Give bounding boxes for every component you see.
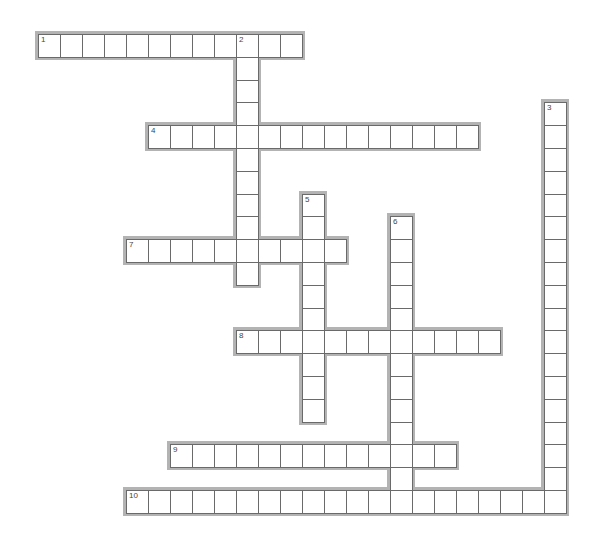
- crossword-cell[interactable]: [434, 330, 457, 354]
- crossword-cell[interactable]: [390, 467, 413, 491]
- crossword-cell[interactable]: [302, 239, 325, 263]
- crossword-cell[interactable]: [280, 330, 303, 354]
- crossword-cell[interactable]: [126, 34, 149, 58]
- crossword-cell[interactable]: [236, 490, 259, 514]
- crossword-cell[interactable]: [412, 330, 435, 354]
- crossword-cell[interactable]: 3: [544, 102, 567, 126]
- crossword-cell[interactable]: [302, 444, 325, 468]
- crossword-cell[interactable]: [236, 80, 259, 104]
- crossword-cell[interactable]: [544, 353, 567, 377]
- crossword-cell[interactable]: [236, 262, 259, 286]
- crossword-cell[interactable]: [302, 262, 325, 286]
- crossword-cell[interactable]: [478, 490, 501, 514]
- crossword-cell[interactable]: [302, 285, 325, 309]
- crossword-cell[interactable]: [280, 444, 303, 468]
- crossword-cell[interactable]: [60, 34, 83, 58]
- crossword-cell[interactable]: [390, 353, 413, 377]
- crossword-cell[interactable]: [258, 444, 281, 468]
- crossword-cell[interactable]: [302, 376, 325, 400]
- crossword-cell[interactable]: [544, 239, 567, 263]
- crossword-cell[interactable]: 2: [236, 34, 259, 58]
- crossword-cell[interactable]: [390, 422, 413, 446]
- crossword-cell[interactable]: 10: [126, 490, 149, 514]
- crossword-cell[interactable]: [324, 330, 347, 354]
- crossword-cell[interactable]: [148, 239, 171, 263]
- crossword-cell[interactable]: [434, 490, 457, 514]
- crossword-cell[interactable]: [302, 490, 325, 514]
- crossword-cell[interactable]: [390, 308, 413, 332]
- crossword-cell[interactable]: [192, 34, 215, 58]
- crossword-cell[interactable]: [170, 239, 193, 263]
- crossword-cell[interactable]: [500, 490, 523, 514]
- crossword-cell[interactable]: [544, 148, 567, 172]
- crossword-cell[interactable]: [324, 490, 347, 514]
- crossword-cell[interactable]: [456, 125, 479, 149]
- crossword-cell[interactable]: [544, 490, 567, 514]
- crossword-cell[interactable]: [192, 239, 215, 263]
- crossword-cell[interactable]: [368, 330, 391, 354]
- crossword-cell[interactable]: [258, 330, 281, 354]
- crossword-cell[interactable]: [390, 444, 413, 468]
- crossword-cell[interactable]: [544, 171, 567, 195]
- crossword-cell[interactable]: [302, 308, 325, 332]
- crossword-cell[interactable]: [236, 444, 259, 468]
- crossword-cell[interactable]: [302, 216, 325, 240]
- crossword-cell[interactable]: 4: [148, 125, 171, 149]
- crossword-cell[interactable]: [544, 422, 567, 446]
- crossword-cell[interactable]: [192, 490, 215, 514]
- crossword-cell[interactable]: [236, 57, 259, 81]
- crossword-cell[interactable]: [214, 34, 237, 58]
- crossword-cell[interactable]: [544, 308, 567, 332]
- crossword-cell[interactable]: [236, 125, 259, 149]
- crossword-cell[interactable]: [302, 330, 325, 354]
- crossword-cell[interactable]: [302, 399, 325, 423]
- crossword-cell[interactable]: [412, 125, 435, 149]
- crossword-cell[interactable]: [456, 490, 479, 514]
- crossword-cell[interactable]: [478, 330, 501, 354]
- crossword-cell[interactable]: [214, 125, 237, 149]
- crossword-cell[interactable]: [544, 285, 567, 309]
- crossword-cell[interactable]: [390, 399, 413, 423]
- crossword-cell[interactable]: 7: [126, 239, 149, 263]
- crossword-cell[interactable]: [544, 376, 567, 400]
- crossword-cell[interactable]: [412, 490, 435, 514]
- crossword-cell[interactable]: [280, 125, 303, 149]
- crossword-cell[interactable]: [280, 239, 303, 263]
- crossword-cell[interactable]: [434, 125, 457, 149]
- crossword-cell[interactable]: [324, 125, 347, 149]
- crossword-cell[interactable]: [236, 102, 259, 126]
- crossword-cell[interactable]: [368, 490, 391, 514]
- crossword-cell[interactable]: [390, 239, 413, 263]
- crossword-cell[interactable]: [236, 194, 259, 218]
- crossword-cell[interactable]: [280, 34, 303, 58]
- crossword-cell[interactable]: [544, 216, 567, 240]
- crossword-cell[interactable]: [544, 330, 567, 354]
- crossword-cell[interactable]: [236, 148, 259, 172]
- crossword-cell[interactable]: [368, 444, 391, 468]
- crossword-cell[interactable]: [544, 125, 567, 149]
- crossword-cell[interactable]: [258, 490, 281, 514]
- crossword-cell[interactable]: [236, 216, 259, 240]
- crossword-cell[interactable]: [456, 330, 479, 354]
- crossword-cell[interactable]: [390, 490, 413, 514]
- crossword-cell[interactable]: [236, 239, 259, 263]
- crossword-cell[interactable]: [346, 490, 369, 514]
- crossword-cell[interactable]: [368, 125, 391, 149]
- crossword-cell[interactable]: 6: [390, 216, 413, 240]
- crossword-cell[interactable]: [302, 353, 325, 377]
- crossword-cell[interactable]: [258, 34, 281, 58]
- crossword-cell[interactable]: [214, 239, 237, 263]
- crossword-cell[interactable]: [544, 399, 567, 423]
- crossword-cell[interactable]: 8: [236, 330, 259, 354]
- crossword-cell[interactable]: [522, 490, 545, 514]
- crossword-cell[interactable]: [544, 467, 567, 491]
- crossword-cell[interactable]: [324, 444, 347, 468]
- crossword-cell[interactable]: [258, 125, 281, 149]
- crossword-cell[interactable]: 9: [170, 444, 193, 468]
- crossword-cell[interactable]: [346, 444, 369, 468]
- crossword-cell[interactable]: [192, 125, 215, 149]
- crossword-cell[interactable]: [346, 330, 369, 354]
- crossword-cell[interactable]: 5: [302, 194, 325, 218]
- crossword-cell[interactable]: [236, 171, 259, 195]
- crossword-cell[interactable]: [258, 239, 281, 263]
